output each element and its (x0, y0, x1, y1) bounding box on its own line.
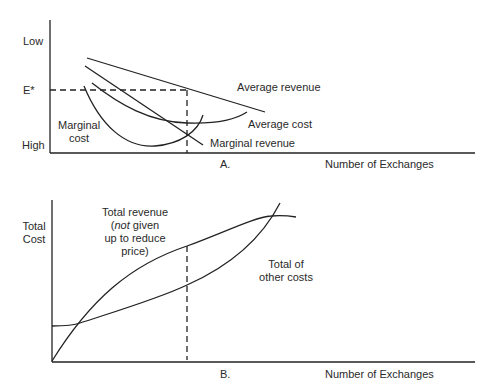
marginal-revenue-curve (85, 66, 203, 145)
average-revenue-label: Average revenue (237, 81, 321, 94)
marginal-cost-label: Marginal cost (58, 119, 100, 145)
total-revenue-label-line2: (not given (95, 219, 175, 232)
average-cost-label: Average cost (248, 118, 312, 131)
panel-b-y-label-line2: Cost (20, 233, 48, 246)
total-revenue-label: Total revenue (not given up to reduce pr… (95, 206, 175, 258)
panel-b-y-axis-label: Total Cost (20, 220, 48, 246)
panel-a-y-e-star-label: E* (23, 84, 35, 97)
total-other-costs-label-line1: Total of (256, 258, 316, 271)
emphasis-not: not (115, 219, 130, 231)
total-other-costs-label: Total of other costs (256, 258, 316, 284)
average-cost-curve (92, 83, 247, 123)
total-other-costs-label-line2: other costs (256, 271, 316, 284)
total-revenue-label-line3: up to reduce (95, 232, 175, 245)
panel-a-y-high-label: High (22, 139, 45, 152)
panel-a-id-label: A. (220, 158, 230, 171)
marginal-cost-label-line2: cost (58, 132, 100, 145)
panel-b-id-label: B. (220, 368, 230, 381)
total-revenue-label-line1: Total revenue (95, 206, 175, 219)
panel-b-x-axis-label: Number of Exchanges (325, 368, 434, 381)
marginal-cost-curve (84, 86, 203, 146)
total-revenue-label-line2-rest: given (130, 219, 159, 231)
marginal-cost-label-line1: Marginal (58, 119, 100, 132)
total-revenue-label-line4: price) (95, 245, 175, 258)
panel-a-x-axis-label: Number of Exchanges (325, 158, 434, 171)
marginal-revenue-label: Marginal revenue (210, 137, 295, 150)
diagram-canvas (0, 0, 490, 389)
panel-a-y-low-label: Low (23, 35, 43, 48)
panel-b-y-label-line1: Total (20, 220, 48, 233)
